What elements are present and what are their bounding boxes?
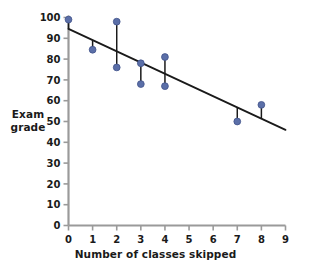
data-point-marker xyxy=(113,18,120,25)
data-point-marker xyxy=(234,118,241,125)
y-tick-label: 70 xyxy=(47,75,61,86)
y-axis-label-line-1: Exam xyxy=(2,108,54,121)
y-tick-label: 40 xyxy=(47,137,61,148)
y-tick-label: 80 xyxy=(47,54,61,65)
y-axis-label-line-2: grade xyxy=(2,121,54,134)
x-axis-label: Number of classes skipped xyxy=(0,248,311,260)
regression-line-group xyxy=(69,29,286,130)
data-point-marker xyxy=(137,81,144,88)
residual-segments-group xyxy=(69,20,262,122)
y-tick-label: 60 xyxy=(47,95,61,106)
x-tick-label: 5 xyxy=(186,234,193,245)
chart-figure: Exam grade Number of classes skipped 010… xyxy=(0,0,311,274)
x-tick-label: 3 xyxy=(137,234,144,245)
data-point-marker xyxy=(162,83,169,90)
regression-line xyxy=(69,29,286,130)
x-tick-group: 0123456789 xyxy=(65,226,289,245)
y-tick-label: 10 xyxy=(47,199,61,210)
x-tick-label: 9 xyxy=(282,234,289,245)
data-point-marker xyxy=(258,101,265,108)
x-tick-label: 8 xyxy=(258,234,265,245)
data-point-marker xyxy=(137,60,144,67)
y-axis-label: Exam grade xyxy=(2,108,54,133)
x-tick-label: 1 xyxy=(89,234,96,245)
y-tick-label: 30 xyxy=(47,158,61,169)
y-tick-label: 20 xyxy=(47,179,61,190)
x-tick-label: 4 xyxy=(161,234,168,245)
data-point-marker xyxy=(162,54,169,61)
x-tick-label: 7 xyxy=(234,234,241,245)
data-point-marker xyxy=(65,16,72,23)
data-point-marker xyxy=(89,46,96,53)
axes-group xyxy=(69,16,286,226)
y-tick-label: 90 xyxy=(47,33,61,44)
y-tick-label: 0 xyxy=(54,220,61,231)
scatter-plot-canvas: 0102030405060708090100 0123456789 xyxy=(0,0,311,274)
x-tick-label: 0 xyxy=(65,234,72,245)
x-tick-label: 6 xyxy=(210,234,217,245)
data-point-marker xyxy=(113,64,120,71)
y-tick-label: 100 xyxy=(40,12,61,23)
x-tick-label: 2 xyxy=(113,234,120,245)
